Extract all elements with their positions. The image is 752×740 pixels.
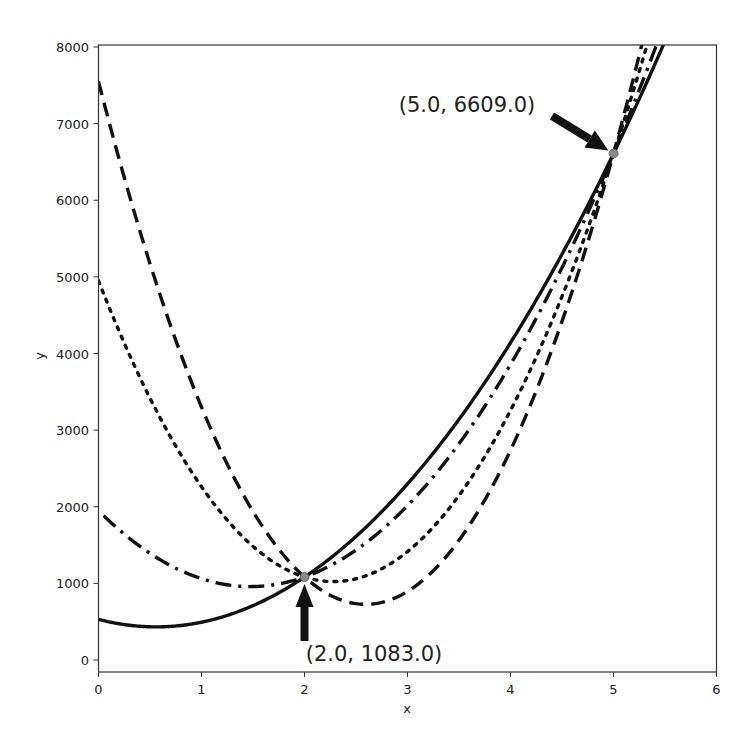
annotation-label: (5.0, 6609.0) [399, 93, 536, 117]
y-tick-label: 1000 [56, 576, 89, 591]
x-axis-label: x [403, 701, 411, 716]
plot-background [99, 45, 717, 672]
x-tick-label: 0 [94, 682, 102, 697]
y-tick-label: 7000 [56, 117, 89, 132]
point-marker [609, 149, 618, 158]
chart: 0123456 01000200030004000500060007000800… [0, 0, 752, 740]
y-tick-label: 3000 [56, 423, 89, 438]
x-tick-label: 2 [300, 682, 308, 697]
point-marker [300, 573, 309, 582]
y-tick-label: 6000 [56, 193, 89, 208]
x-tick-label: 4 [506, 682, 514, 697]
arrow-shaft [301, 605, 309, 641]
y-axis-label: y [32, 352, 47, 360]
x-tick-label: 3 [403, 682, 411, 697]
y-tick-label: 0 [81, 653, 89, 668]
y-tick-label: 5000 [56, 270, 89, 285]
x-tick-label: 1 [197, 682, 205, 697]
y-tick-label: 2000 [56, 500, 89, 515]
y-tick-label: 4000 [56, 347, 89, 362]
y-axis: 010002000300040005000600070008000 [56, 40, 99, 668]
y-tick-label: 8000 [56, 40, 89, 55]
x-axis: 0123456 [94, 672, 720, 697]
annotation-label: (2.0, 1083.0) [306, 642, 443, 666]
x-tick-label: 6 [712, 682, 720, 697]
x-tick-label: 5 [609, 682, 617, 697]
